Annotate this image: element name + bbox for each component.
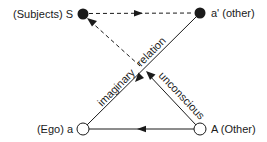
arrowhead-right-icon xyxy=(134,10,143,17)
edge-a-other-to-ego xyxy=(89,126,194,133)
label-other-big-a: A (Other) xyxy=(211,123,256,135)
edge-s-to-a-prime xyxy=(89,10,194,17)
node-subject-s xyxy=(78,9,89,20)
arrowhead-up-left-icon xyxy=(146,71,156,80)
node-other-big-a xyxy=(194,123,206,135)
node-other-a-prime xyxy=(195,8,206,19)
label-relation: relation xyxy=(134,34,168,68)
schema-l-diagram: (Subjects) S a' (other) (Ego) a A (Other… xyxy=(0,0,267,142)
arrowhead-left-icon xyxy=(137,126,146,133)
label-unconscious: unconscious xyxy=(157,69,208,122)
label-ego-a: (Ego) a xyxy=(37,123,74,135)
label-imaginary: imaginary xyxy=(95,66,138,109)
arrowhead-up-left-icon xyxy=(87,18,97,27)
node-ego-a xyxy=(77,123,89,135)
label-subject-s: (Subjects) S xyxy=(13,8,73,20)
label-other-a-prime: a' (other) xyxy=(211,7,255,19)
